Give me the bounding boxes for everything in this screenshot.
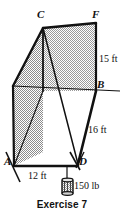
- vertex-label-D: D: [79, 156, 87, 167]
- dimension-label-12ft: 12 ft: [28, 171, 47, 181]
- load-label-150lb: 150 lb: [74, 181, 99, 191]
- dimension-label-15ft: 15 ft: [99, 54, 118, 64]
- figure-caption: Exercise 7: [0, 199, 124, 210]
- exercise-7-diagram: [0, 0, 124, 214]
- left-plate-lower-shaded: [13, 86, 43, 166]
- vertex-label-F: F: [92, 9, 99, 20]
- member-E-A: [13, 86, 14, 166]
- vertex-label-B: B: [97, 79, 104, 90]
- vertex-label-C: C: [37, 9, 44, 20]
- weight-cylinder-icon: [62, 178, 73, 195]
- vertex-label-A: A: [4, 156, 11, 167]
- figure-root: C F B A D 15 ft 16 ft 12 ft 150 lb Exerc…: [0, 0, 124, 214]
- dimension-label-16ft: 16 ft: [88, 125, 107, 135]
